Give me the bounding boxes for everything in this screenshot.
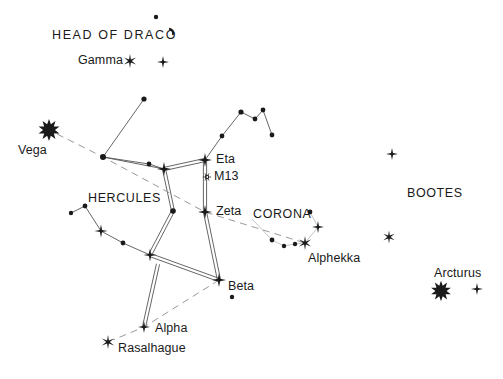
corona-star-cross: [312, 221, 324, 233]
draco-chain-5-disc: [270, 133, 275, 138]
draco-chain-2: [238, 109, 243, 114]
vega-star-rays: [39, 119, 60, 141]
draco-chain-5: [270, 133, 275, 138]
label-alpha: Alpha: [155, 322, 187, 335]
hercules-lower-link: [103, 157, 164, 169]
hercules-epsilon-disc: [170, 208, 176, 214]
label-gamma: Gamma: [78, 54, 123, 67]
label-alphekka: Alphekka: [308, 252, 360, 265]
hercules-arm-dot: [121, 241, 126, 246]
bootes-epsilon-glyph: [383, 231, 394, 244]
star-chart: HEAD OF DRACOGammaVegaHERCULESEtaM13Zeta…: [0, 0, 503, 379]
rasalhague-star-glyph: [102, 335, 114, 349]
hercules-alpha: [138, 321, 150, 333]
hercules-dot-mid-disc: [147, 162, 152, 167]
bootes-north-glyph: [386, 148, 398, 160]
m13-cluster-tick-2: [205, 179, 206, 180]
hercules-eta: [198, 153, 212, 167]
bootes-eta-glyph: [471, 283, 483, 295]
m13-cluster-tick-1: [208, 179, 209, 180]
draco-chain-3: [253, 117, 258, 122]
hercules-north-dot: [141, 96, 146, 101]
gamma-draconis-glyph: [124, 54, 136, 68]
label-m13: M13: [214, 170, 239, 183]
hercules-arm-bright: [95, 225, 108, 238]
label-hercules: HERCULES: [88, 192, 161, 205]
label-vega: Vega: [18, 144, 47, 157]
hercules-beta-companion: [230, 295, 234, 299]
draco-chain-4: [261, 108, 266, 113]
rasalhague-star: [102, 335, 114, 349]
hercules-north-dot-disc: [141, 96, 146, 101]
draco-chain-3-disc: [253, 117, 258, 122]
corona-dot-3-disc: [293, 242, 297, 246]
hercules-arm: [71, 206, 150, 255]
corona-dot-2-disc: [282, 244, 286, 248]
m13-cluster-tick-4: [205, 173, 206, 174]
arcturus-star: [431, 281, 451, 302]
label-zeta: Zeta: [216, 205, 241, 218]
hercules-beta-glyph: [212, 273, 226, 287]
corona-dot-2: [282, 244, 286, 248]
hercules-pi-glyph: [157, 162, 171, 176]
corona-dot-1: [270, 238, 275, 243]
hercules-alpha-glyph: [138, 321, 150, 333]
hercules-zeta: [198, 205, 212, 219]
corona-star-cross-glyph: [312, 221, 324, 233]
draco-chain-2-disc: [238, 109, 243, 114]
draco-star-2-glyph: [157, 56, 169, 68]
draco-star-2: [157, 56, 169, 68]
hercules-eta-glyph: [198, 153, 212, 167]
hercules-arm-dot3: [69, 211, 73, 215]
label-corona: CORONA: [253, 208, 311, 221]
bootes-north: [386, 148, 398, 160]
hercules-beta: [212, 273, 226, 287]
vega-star: [39, 119, 60, 141]
hercules-arm-dot3-disc: [69, 211, 73, 215]
corona-dot-1-disc: [270, 238, 275, 243]
corona-dot-3: [293, 242, 297, 246]
hercules-north-spur: [103, 99, 144, 157]
label-head-of-draco: HEAD OF DRACO: [52, 29, 177, 42]
m13-cluster-tick-5: [208, 173, 209, 174]
hercules-arm-dot2: [83, 204, 88, 209]
draco-chain-4-disc: [261, 108, 266, 113]
hercules-alpha-leg-rail-1: [142, 264, 156, 327]
label-beta: Beta: [228, 280, 254, 293]
gamma-draconis: [124, 54, 136, 68]
label-bootes: BOOTES: [407, 187, 463, 200]
hercules-keystone-bottom-rail-1: [149, 257, 218, 282]
hercules-keystone-bottom-rail-0: [151, 253, 220, 278]
hercules-arm-bright-glyph: [95, 225, 108, 238]
hercules-arm-dot2-disc: [83, 204, 88, 209]
draco-chain-1-disc: [220, 134, 225, 139]
hercules-beta-companion-disc: [230, 295, 234, 299]
hercules-junction-disc: [100, 154, 106, 160]
hercules-alpha-leg-rail-0: [146, 264, 160, 327]
label-rasalhague: Rasalhague: [118, 342, 186, 355]
ecliptic-main: [57, 134, 305, 243]
bootes-eta: [471, 283, 483, 295]
hercules-dot-mid: [147, 162, 152, 167]
label-eta: Eta: [216, 153, 235, 166]
draco-chain-1: [220, 134, 225, 139]
draco-star-3: [154, 15, 158, 19]
hercules-junction: [100, 154, 106, 160]
label-arcturus: Arcturus: [434, 267, 481, 280]
arcturus-star-rays: [431, 281, 451, 302]
bootes-epsilon: [383, 231, 394, 244]
hercules-arm-dot-disc: [121, 241, 126, 246]
hercules-zeta-glyph: [198, 205, 212, 219]
hercules-pi: [157, 162, 171, 176]
hercules-epsilon: [170, 208, 176, 214]
draco-star-3-disc: [154, 15, 158, 19]
